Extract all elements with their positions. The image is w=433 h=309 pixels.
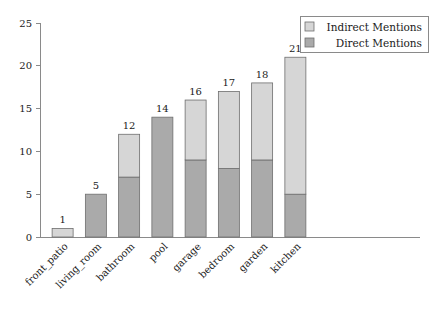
bar-segment-direct: [185, 160, 206, 237]
chart-legend: Indirect MentionsDirect Mentions: [300, 16, 428, 52]
legend-label: Direct Mentions: [336, 37, 422, 49]
y-axis-tick-label: 20: [19, 60, 32, 71]
y-axis-tick-label: 0: [26, 232, 32, 243]
legend-swatch: [305, 38, 314, 47]
bar-value-label: 17: [223, 77, 236, 88]
bar-segment-indirect: [285, 57, 306, 194]
bar-value-label: 16: [189, 86, 202, 97]
bar-value-label: 12: [123, 120, 136, 131]
bar-segment-direct: [85, 194, 106, 237]
stacked-bar-chart: 0510152025 15121416171821 front_patioliv…: [0, 0, 433, 309]
bar-value-label: 18: [256, 69, 269, 80]
bar-segment-indirect: [185, 100, 206, 160]
bar-segment-indirect: [218, 91, 239, 168]
y-axis-tick-label: 15: [19, 103, 32, 114]
bar-segment-direct: [152, 117, 173, 237]
bar-value-label: 1: [59, 214, 65, 225]
bar-segment-direct: [252, 160, 273, 237]
y-axis-tick-label: 25: [19, 18, 32, 29]
bar-segment-indirect: [52, 228, 73, 237]
legend-swatch: [305, 22, 314, 31]
bar-value-label: 5: [93, 180, 99, 191]
bar-value-label: 14: [156, 103, 169, 114]
bar-segment-indirect: [252, 83, 273, 160]
y-axis-tick-label: 5: [26, 189, 32, 200]
chart-canvas: 0510152025 15121416171821 front_patioliv…: [0, 0, 433, 309]
y-axis-tick-label: 10: [19, 146, 32, 157]
legend-label: Indirect Mentions: [327, 21, 422, 33]
bar-segment-direct: [119, 177, 140, 237]
bar-segment-direct: [285, 194, 306, 237]
bar-segment-indirect: [119, 134, 140, 177]
bar-segment-direct: [218, 169, 239, 237]
